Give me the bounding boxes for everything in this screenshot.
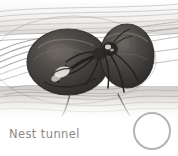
illustration-figure: Nest tunnel — [0, 0, 178, 156]
tunnel-walls — [0, 0, 178, 122]
dark-seed-mass-left — [27, 29, 109, 95]
caption-nest-tunnel: Nest tunnel — [9, 127, 80, 141]
marker-circle[interactable] — [133, 112, 171, 150]
